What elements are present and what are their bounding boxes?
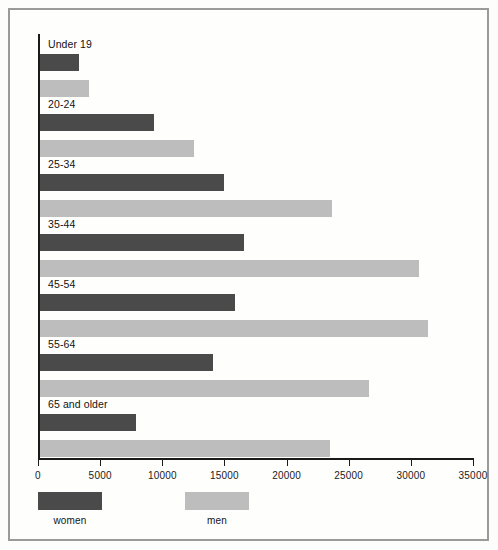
bar-group: 45-54 [40, 278, 475, 338]
bar-women [40, 354, 213, 371]
chart-page: 05000100001500020000250003000035000 Unde… [0, 0, 498, 550]
plot-area: 05000100001500020000250003000035000 Unde… [38, 34, 473, 458]
category-label: 25-34 [48, 158, 75, 170]
legend-swatch-women [38, 492, 102, 510]
bar-men [40, 80, 89, 97]
x-tick-label: 5000 [89, 470, 112, 481]
bar-group: 25-34 [40, 158, 475, 218]
x-tick [349, 458, 350, 466]
bar-men [40, 440, 330, 457]
bar-women [40, 414, 136, 431]
chart-legend: womenmen [38, 492, 473, 540]
legend-label-women: women [38, 515, 102, 526]
bar-men [40, 320, 428, 337]
legend-label-men: men [185, 515, 249, 526]
bar-women [40, 294, 235, 311]
x-tick-label: 30000 [396, 470, 425, 481]
bar-women [40, 234, 244, 251]
bar-group: Under 19 [40, 38, 475, 98]
legend-item-women: women [38, 492, 102, 526]
x-tick-label: 20000 [272, 470, 301, 481]
category-label: 20-24 [48, 98, 75, 110]
x-axis-line [38, 458, 474, 460]
category-label: 55-64 [48, 338, 75, 350]
bar-men [40, 140, 194, 157]
bar-men [40, 380, 369, 397]
bar-group: 65 and older [40, 398, 475, 458]
x-tick [162, 458, 163, 466]
bar-group: 55-64 [40, 338, 475, 398]
legend-swatch-men [185, 492, 249, 510]
x-tick [100, 458, 101, 466]
category-label: 35-44 [48, 218, 75, 230]
x-tick-label: 35000 [459, 470, 488, 481]
bar-women [40, 174, 224, 191]
x-tick [473, 458, 474, 466]
bar-women [40, 114, 154, 131]
x-tick-label: 15000 [210, 470, 239, 481]
x-tick-label: 25000 [334, 470, 363, 481]
bar-women [40, 54, 79, 71]
bar-men [40, 260, 419, 277]
x-tick [38, 458, 39, 466]
x-tick [287, 458, 288, 466]
bar-group: 20-24 [40, 98, 475, 158]
x-tick-label: 10000 [148, 470, 177, 481]
bar-group: 35-44 [40, 218, 475, 278]
category-label: Under 19 [48, 38, 92, 50]
category-label: 65 and older [48, 398, 108, 410]
x-tick [224, 458, 225, 466]
bar-men [40, 200, 332, 217]
legend-item-men: men [185, 492, 249, 526]
x-tick [411, 458, 412, 466]
category-label: 45-54 [48, 278, 75, 290]
x-tick-label: 0 [35, 470, 41, 481]
